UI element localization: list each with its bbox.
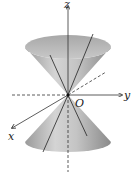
origin-point — [66, 93, 69, 96]
double-cone-diagram: z y x O — [0, 0, 140, 175]
lower-cone-nappe — [25, 95, 111, 152]
origin-label: O — [75, 97, 84, 110]
z-axis-label: z — [63, 0, 70, 11]
y-axis-label: y — [123, 89, 131, 102]
x-axis-label: x — [8, 130, 15, 143]
